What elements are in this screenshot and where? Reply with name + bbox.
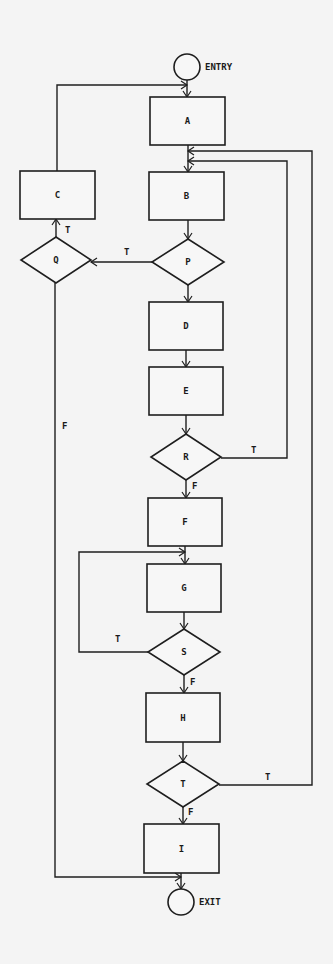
exit-terminal: EXIT <box>168 889 221 915</box>
process-label: H <box>180 713 185 723</box>
decision-label: P <box>185 257 191 267</box>
edge-label-t-true: T <box>265 772 271 782</box>
process-label: B <box>184 191 190 201</box>
process-label: A <box>185 116 191 126</box>
process-box-e: E <box>149 367 223 415</box>
decision-q: Q <box>21 237 91 283</box>
edge-label-t-false: F <box>188 807 193 817</box>
flowchart-svg: ENTRY EXIT ABCDEFGHI QPRST TTFTFTFTF <box>0 0 333 964</box>
process-label: F <box>182 517 187 527</box>
process-box-g: G <box>147 564 221 612</box>
process-label: E <box>183 386 188 396</box>
decision-label: T <box>180 779 186 789</box>
process-label: G <box>181 583 186 593</box>
process-label: D <box>183 321 189 331</box>
edge-label-s-false: F <box>190 677 195 687</box>
process-label: I <box>179 844 184 854</box>
process-box-h: H <box>146 693 220 742</box>
process-box-f: F <box>148 498 222 546</box>
entry-label: ENTRY <box>205 62 233 72</box>
process-box-d: D <box>149 302 223 350</box>
entry-circle <box>174 54 200 80</box>
process-box-i: I <box>144 824 219 873</box>
edge-label-p-true: T <box>124 247 130 257</box>
edge-t-b <box>188 151 312 785</box>
exit-circle <box>168 889 194 915</box>
process-box-a: A <box>150 97 225 145</box>
edge-label-r-false: F <box>192 481 197 491</box>
entry-terminal: ENTRY <box>174 54 233 80</box>
decision-label: Q <box>53 255 59 265</box>
edge-label-q-false: F <box>62 421 67 431</box>
decision-s: S <box>148 629 220 675</box>
exit-label: EXIT <box>199 897 221 907</box>
decision-label: R <box>183 452 189 462</box>
process-label: C <box>55 190 60 200</box>
edge-label-r-true: T <box>251 445 257 455</box>
edge-label-s-true: T <box>115 634 121 644</box>
decision-label: S <box>181 647 186 657</box>
process-box-c: C <box>20 171 95 219</box>
decision-r: R <box>151 434 221 480</box>
process-box-b: B <box>149 172 224 220</box>
decision-t: T <box>147 761 219 807</box>
edge-label-q-true: T <box>65 225 71 235</box>
flowchart-canvas: ENTRY EXIT ABCDEFGHI QPRST TTFTFTFTF <box>0 0 333 964</box>
decision-p: P <box>152 239 224 285</box>
